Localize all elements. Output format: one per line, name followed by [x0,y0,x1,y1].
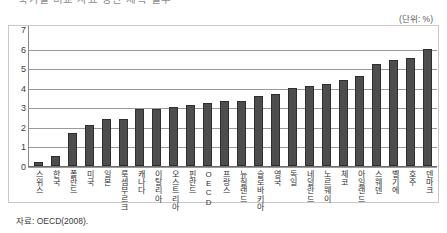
x-label-slot: 뉴질랜드 [233,170,250,206]
bar [254,96,263,166]
bar [220,101,229,166]
x-label-slot: OECD [200,170,217,206]
x-label-slot: 오스트리아 [166,170,183,206]
x-axis-label: 슬로바키아 [255,170,263,206]
x-axis-label: 오스트리아 [170,170,178,206]
x-label-slot: 일본 [98,170,115,206]
x-axis-label: 덴마크 [424,170,432,206]
bar [288,88,297,166]
x-axis-label: 영국 [272,170,280,206]
x-label-slot: 독일 [284,170,301,206]
unit-label: (단위: %) [399,12,433,24]
bar-slot [335,30,352,166]
bar-slot [402,30,419,166]
x-axis-label: 뉴질랜드 [238,170,246,206]
caption-cutoff-strip: 국가별 비교 자료 상단 제목 일부 [0,0,447,11]
bar-slot [199,30,216,166]
x-label-slot: 프랑스 [216,170,233,206]
bar [135,109,144,166]
y-tick-label-1: 1 [8,143,26,152]
figure-container: 국가별 비교 자료 상단 제목 일부 (단위: %) 01234567 스위스한… [0,0,447,233]
y-tick-label-3: 3 [8,104,26,113]
x-axis-label: 캐나다 [136,170,144,206]
x-axis-label: 일본 [102,170,110,206]
gridline-0 [28,167,437,168]
bar-slot [368,30,385,166]
bar [389,60,398,166]
bar-slot [132,30,149,166]
x-label-slot: 슬로바키아 [250,170,267,206]
bar-slot [47,30,64,166]
y-axis-tick-labels: 01234567 [8,24,26,173]
x-axis-label: 노르웨이 [322,170,330,206]
x-axis-label: 폴란드 [68,170,76,206]
x-label-slot: 한국 [47,170,64,206]
x-label-slot: 스위스 [30,170,47,206]
source-note: 자료: OECD(2008). [16,214,88,226]
y-tick-label-6: 6 [8,46,26,55]
bar [51,156,60,166]
bar [322,84,331,166]
x-axis-label: 한국 [51,170,59,206]
bar-slot [233,30,250,166]
x-label-slot: 영국 [267,170,284,206]
y-tick-label-5: 5 [8,65,26,74]
x-label-slot: 호주 [403,170,420,206]
y-tick-label-2: 2 [8,124,26,133]
x-label-slot: 체코 [335,170,352,206]
x-axis-label: 독일 [289,170,297,206]
bar-slot [165,30,182,166]
x-axis-label: 호주 [407,170,415,206]
bar-slot [148,30,165,166]
x-axis-line [28,166,437,167]
x-axis-label: 스웨덴 [373,170,381,206]
bar [186,105,195,166]
bar [271,94,280,166]
bar-slot [182,30,199,166]
bar-slot [64,30,81,166]
bar [423,49,432,166]
bar [203,103,212,166]
bar [237,101,246,166]
x-axis-label: 프랑스 [221,170,229,206]
x-label-slot: 캐나다 [132,170,149,206]
bar-slot [216,30,233,166]
bar [169,107,178,166]
y-tick-label-4: 4 [8,85,26,94]
bar-slot [385,30,402,166]
bar-slot [419,30,436,166]
bar-slot [81,30,98,166]
bar [102,119,111,166]
plot-axis-area [28,30,437,167]
bar [152,109,161,166]
bar-slot [318,30,335,166]
x-label-slot: 네덜란드 [301,170,318,206]
x-label-slot: 룩셈부르크 [115,170,132,206]
x-label-slot: 미국 [81,170,98,206]
bar-slot [352,30,369,166]
x-label-slot: 아일랜드 [352,170,369,206]
caption-cutoff-text: 국가별 비교 자료 상단 제목 일부 [18,0,172,6]
x-label-slot: 덴마크 [420,170,437,206]
x-axis-label: 네덜란드 [306,170,314,206]
bar-slot [30,30,47,166]
bar-slot [284,30,301,166]
bar [305,86,314,166]
bar-slot [250,30,267,166]
x-axis-label: 벨기에 [390,170,398,206]
bar-slot [98,30,115,166]
x-label-slot: 핀란드 [183,170,200,206]
x-axis-label: 스위스 [34,170,42,206]
x-axis-label: 핀란드 [187,170,195,206]
x-label-slot: 이탈리아 [149,170,166,206]
y-tick-label-7: 7 [8,26,26,35]
bar [372,64,381,166]
bar-slot [301,30,318,166]
x-label-slot: 벨기에 [386,170,403,206]
bar [406,58,415,166]
x-axis-category-labels: 스위스한국폴란드미국일본룩셈부르크캐나다이탈리아오스트리아핀란드OECD프랑스뉴… [29,170,438,206]
bar [85,125,94,166]
x-label-slot: 노르웨이 [318,170,335,206]
x-axis-label: 이탈리아 [153,170,161,206]
x-axis-label: 체코 [339,170,347,206]
